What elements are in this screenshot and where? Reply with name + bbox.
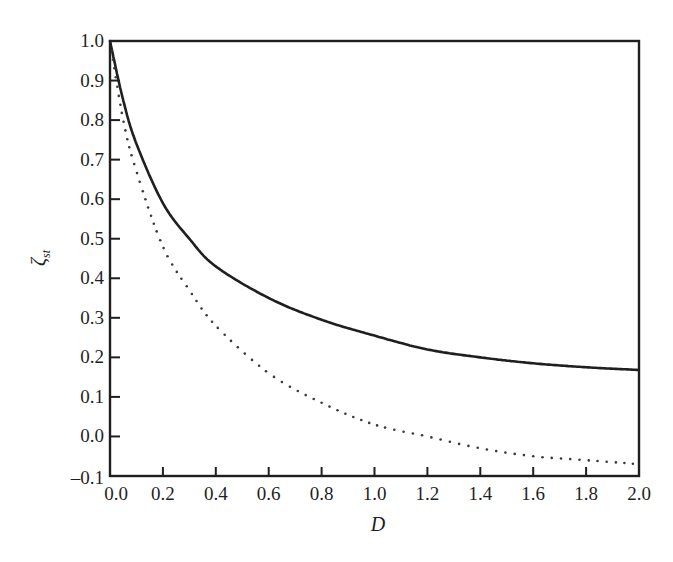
dotted-series-point xyxy=(421,434,424,437)
x-tick-label: 0.2 xyxy=(151,483,175,504)
x-tick-label: 0.4 xyxy=(204,483,228,504)
dotted-series-point xyxy=(144,198,147,201)
dotted-series-point xyxy=(402,430,405,433)
dotted-series-point xyxy=(352,416,355,419)
dotted-series-point xyxy=(368,422,371,425)
dotted-series-point xyxy=(124,129,127,132)
dotted-series-point xyxy=(153,222,156,225)
dotted-series-point xyxy=(176,271,179,274)
dotted-series-point xyxy=(171,263,174,266)
dotted-series-point xyxy=(150,214,153,217)
dotted-series-point xyxy=(476,447,479,450)
dotted-series-point xyxy=(116,85,119,88)
dotted-series-point xyxy=(113,67,116,70)
y-tick-label: 0.8 xyxy=(80,109,104,130)
dotted-series-point xyxy=(541,456,544,459)
dotted-series-point xyxy=(304,394,307,397)
dotted-series-point xyxy=(615,461,618,464)
dotted-series-point xyxy=(230,340,233,343)
dotted-series-point xyxy=(142,190,145,193)
dotted-series-point xyxy=(121,112,124,115)
dotted-series-point xyxy=(560,457,563,460)
dotted-series-point xyxy=(211,320,214,323)
dotted-series-point xyxy=(130,154,133,157)
dotted-series-point xyxy=(297,390,300,393)
dotted-series-point xyxy=(632,462,635,465)
y-tick-label: 0.2 xyxy=(80,346,104,367)
dotted-series-point xyxy=(200,307,203,310)
dotted-series-point xyxy=(217,327,220,330)
dotted-series-point xyxy=(513,453,516,456)
dotted-series-point xyxy=(119,104,122,107)
dotted-series-point xyxy=(258,365,261,368)
dotted-series-point xyxy=(136,172,139,175)
chart: 0.00.20.40.60.81.01.21.41.61.82.01.00.90… xyxy=(0,0,673,562)
y-tick-label: 0.9 xyxy=(80,70,104,91)
dotted-series-point xyxy=(596,460,599,463)
dotted-series-point xyxy=(244,352,247,355)
dotted-series-point xyxy=(532,455,535,458)
dotted-series-point xyxy=(486,448,489,451)
dotted-series-point xyxy=(133,163,136,166)
series-dotted-line xyxy=(109,40,635,465)
x-tick-label: 0.8 xyxy=(310,483,334,504)
y-tick-label: –0.1 xyxy=(70,467,104,488)
x-tick-label: 1.2 xyxy=(416,483,440,504)
y-tick-label: 0.4 xyxy=(80,267,104,288)
dotted-series-point xyxy=(126,138,129,141)
svg-text:ζst: ζst xyxy=(27,249,53,266)
dotted-series-point xyxy=(578,458,581,461)
dotted-series-point xyxy=(328,405,331,408)
dotted-series-point xyxy=(147,206,150,209)
x-axis-label: D xyxy=(370,513,386,535)
dotted-series-point xyxy=(430,436,433,439)
dotted-series-point xyxy=(128,146,131,149)
dotted-series-point xyxy=(162,247,165,250)
dotted-series-point xyxy=(376,424,379,427)
dotted-series-point xyxy=(281,381,284,384)
dotted-series-point xyxy=(155,230,158,233)
dotted-series-point xyxy=(138,181,141,184)
dotted-series-point xyxy=(237,346,240,349)
x-tick-label: 1.0 xyxy=(363,483,387,504)
dotted-series-point xyxy=(115,76,118,79)
dotted-series-point xyxy=(166,255,169,258)
dotted-series-point xyxy=(191,293,194,296)
dotted-series-point xyxy=(458,443,461,446)
dotted-series-point xyxy=(360,419,363,422)
dotted-series-point xyxy=(523,454,526,457)
dotted-series-point xyxy=(122,120,125,123)
dotted-series-point xyxy=(195,300,198,303)
dotted-series-point xyxy=(467,445,470,448)
dotted-series-point xyxy=(504,451,507,454)
y-tick-label: 0.5 xyxy=(80,228,104,249)
y-tick-label: 0.1 xyxy=(80,386,104,407)
plot-frame xyxy=(110,41,639,476)
dotted-series-point xyxy=(623,462,626,465)
x-tick-label: 1.8 xyxy=(574,483,598,504)
y-tick-label: 0.0 xyxy=(80,425,104,446)
x-tick-label: 1.6 xyxy=(521,483,545,504)
y-axis-label: ζst xyxy=(27,249,53,266)
y-tick-label: 0.3 xyxy=(80,307,104,328)
dotted-series-point xyxy=(289,385,292,388)
series-solid-line xyxy=(110,41,639,370)
dotted-series-point xyxy=(205,314,208,317)
x-tick-label: 0.6 xyxy=(257,483,281,504)
y-tick-label: 0.6 xyxy=(80,188,104,209)
dotted-series-point xyxy=(223,333,226,336)
dotted-series-point xyxy=(118,95,121,98)
dotted-series-point xyxy=(495,450,498,453)
dotted-series-point xyxy=(180,277,183,280)
dotted-series-point xyxy=(159,239,162,242)
y-axis-label-sub: st xyxy=(39,249,53,258)
axis-tick-labels: 0.00.20.40.60.81.01.21.41.61.82.01.00.90… xyxy=(70,30,651,504)
dotted-series-point xyxy=(449,440,452,443)
dotted-series-point xyxy=(412,432,415,435)
y-tick-label: 0.7 xyxy=(80,149,104,170)
dotted-series-point xyxy=(344,412,347,415)
x-tick-label: 2.0 xyxy=(627,483,651,504)
dotted-series-point xyxy=(393,429,396,432)
dotted-series-point xyxy=(312,398,315,401)
dotted-series-point xyxy=(185,285,188,288)
